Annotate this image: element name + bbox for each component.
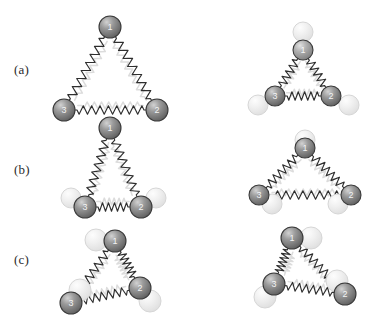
row-a-panel-left-mass-1: 1 xyxy=(99,16,121,38)
row-a-panel-left-mass-3-number: 3 xyxy=(61,105,66,115)
normal-modes-figure: 132132132132132132 xyxy=(0,0,369,318)
row-c-panel-right-mass-3: 3 xyxy=(263,273,285,295)
row-c-panel-left-mass-1-number: 1 xyxy=(112,236,117,246)
row-c-panel-left-mass-2: 2 xyxy=(129,277,151,299)
row-b-panel-right-mass-3-number: 3 xyxy=(256,190,261,200)
row-a-panel-left-mass-1-number: 1 xyxy=(107,22,112,32)
row-c-panel-right-mass-1: 1 xyxy=(281,227,303,249)
row-label-b: (b) xyxy=(14,162,30,178)
row-b-panel-left-mass-1-number: 1 xyxy=(107,123,112,133)
row-c-panel-left-mass-2-number: 2 xyxy=(137,283,142,293)
row-c-panel-right-mass-3-number: 3 xyxy=(271,279,276,289)
row-b-panel-right-mass-2: 2 xyxy=(341,185,361,205)
row-b-panel-right-mass-1-number: 1 xyxy=(302,143,307,153)
row-b-panel-left-mass-2: 2 xyxy=(130,196,152,218)
row-a-panel-right-ghost-mass-1 xyxy=(293,22,313,42)
row-c-panel-right-mass-2: 2 xyxy=(334,283,356,305)
row-c-panel-left-mass-1: 1 xyxy=(104,230,126,252)
row-b-panel-right-mass-3: 3 xyxy=(249,185,269,205)
row-a-panel-left-mass-3: 3 xyxy=(53,99,75,121)
row-b-panel-left-mass-2-number: 2 xyxy=(138,202,143,212)
row-a-panel-right-mass-1: 1 xyxy=(293,40,313,60)
row-b-panel-right-mass-1: 1 xyxy=(295,138,315,158)
row-a-panel-right-mass-2-number: 2 xyxy=(328,91,333,101)
row-b-panel-right-mass-2-number: 2 xyxy=(348,190,353,200)
row-c-panel-right-mass-2-number: 2 xyxy=(342,289,347,299)
row-a-panel-right-mass-3: 3 xyxy=(265,86,285,106)
row-c-panel-left-mass-3-number: 3 xyxy=(68,298,73,308)
row-b-panel-left-mass-3-number: 3 xyxy=(82,202,87,212)
figure-background xyxy=(0,0,369,318)
row-a-panel-right-mass-2: 2 xyxy=(321,86,341,106)
row-label-c: (c) xyxy=(14,252,29,268)
row-a-panel-left-mass-2: 2 xyxy=(146,99,168,121)
row-a-panel-right-mass-1-number: 1 xyxy=(300,45,305,55)
row-a-panel-right-ghost-mass-2 xyxy=(339,95,359,115)
row-c-panel-right-mass-1-number: 1 xyxy=(289,233,294,243)
row-a-panel-left-mass-2-number: 2 xyxy=(154,105,159,115)
row-b-panel-left-mass-1: 1 xyxy=(99,117,121,139)
row-a-panel-right-mass-3-number: 3 xyxy=(272,91,277,101)
row-c-panel-left-mass-3: 3 xyxy=(60,292,82,314)
row-b-panel-left-mass-3: 3 xyxy=(74,196,96,218)
row-label-a: (a) xyxy=(14,62,29,78)
